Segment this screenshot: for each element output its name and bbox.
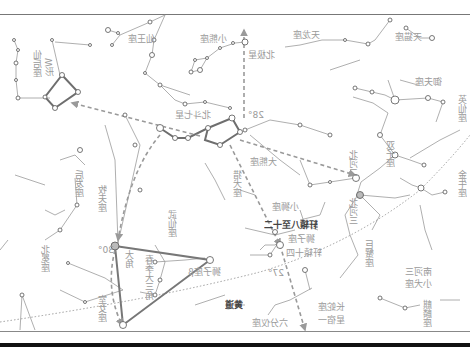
label-alphard: 星宿一: [318, 313, 345, 326]
label-coma: 后发座: [72, 170, 85, 197]
label-angle-27: 27°: [268, 268, 284, 278]
label-cepheus: 仙王座: [128, 32, 155, 45]
label-ursa-minor: 小熊座: [200, 32, 227, 45]
label-regulus: 轩辕十四: [286, 246, 322, 259]
label-leo-minor: 小狮座: [272, 200, 299, 213]
label-denebola: 狮子座β: [188, 265, 221, 278]
label-ursa-major: 大熊座: [250, 155, 277, 168]
label-gemini: 双子座: [383, 140, 396, 167]
ecliptic-line: [0, 135, 470, 322]
label-lynx: 天猫座: [395, 30, 422, 43]
label-ecliptic: 黄道: [225, 298, 243, 311]
label-cassiopeia-w: W形: [42, 58, 55, 76]
label-angle-30: 30°: [98, 245, 114, 255]
label-castor: 北河二: [346, 150, 359, 177]
label-bootes: 牧夫座: [95, 185, 108, 212]
label-big-dipper: 北斗七星: [175, 108, 211, 121]
label-hydra: 长蛇座: [318, 300, 345, 313]
label-perseus: 英仙座: [455, 95, 468, 122]
label-cancer: 巨蟹座: [362, 240, 375, 267]
label-canis-minor: 小犬座: [405, 277, 432, 290]
bottom-rule: [0, 343, 470, 347]
label-pollux: 北河三: [346, 198, 359, 225]
cassiopeia-lines: [45, 75, 78, 108]
label-canes-venatici: 猎犬座: [230, 170, 243, 197]
label-xuanyuan: 轩辕八至十二: [264, 218, 318, 231]
label-spring-triangle: 春季大三角: [142, 255, 155, 300]
big-dipper-lines: [160, 118, 240, 145]
pointer-arrows: [72, 30, 355, 330]
label-leo: 狮子座: [288, 232, 315, 245]
label-monoceros: 麒麟座: [420, 300, 433, 327]
label-hercules: 武仙座: [165, 210, 178, 237]
label-auriga: 御夫座: [415, 75, 442, 88]
label-angle-28: 28°: [248, 110, 264, 120]
label-sextans: 六分仪座: [252, 316, 288, 329]
label-virgo: 室女座: [95, 295, 108, 322]
label-taurus: 金牛座: [455, 170, 468, 197]
label-corona: 北冕座: [38, 245, 51, 272]
label-polaris: 北极星: [248, 48, 275, 61]
label-draco: 天龙座: [293, 28, 320, 41]
label-arcturus: 大角: [122, 250, 135, 268]
